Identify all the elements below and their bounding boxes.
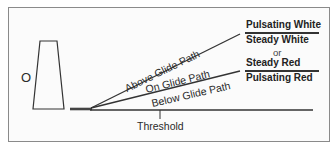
signal-pulsating-red: Pulsating Red [246, 72, 313, 83]
threshold-label: Threshold [137, 120, 184, 132]
signal-steady-red: Steady Red [246, 57, 300, 68]
marker-circle-icon: O [21, 70, 31, 85]
signal-pulsating-white: Pulsating White [246, 19, 321, 30]
light-unit-icon [33, 41, 64, 109]
signal-steady-white: Steady White [246, 34, 309, 45]
